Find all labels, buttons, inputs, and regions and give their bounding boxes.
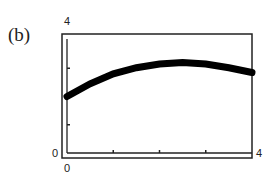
x-min-label: 0 bbox=[64, 162, 70, 174]
chart: 4 0 0 4 bbox=[0, 0, 272, 184]
axis-ticks bbox=[67, 68, 206, 153]
x-max-label: 4 bbox=[256, 147, 262, 159]
y-min-label: 0 bbox=[52, 147, 58, 159]
chart-frame bbox=[62, 34, 252, 158]
data-curve bbox=[67, 63, 252, 97]
y-max-label: 4 bbox=[64, 15, 70, 27]
